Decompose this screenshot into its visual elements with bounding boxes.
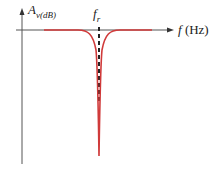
resonant-frequency-label: fr [93,6,100,24]
y-axis-arrow-icon [20,8,25,15]
y-axis-label: Av(dB) [28,2,56,20]
x-axis-label: f (Hz) [178,22,209,38]
x-axis-arrow-icon [167,28,174,33]
